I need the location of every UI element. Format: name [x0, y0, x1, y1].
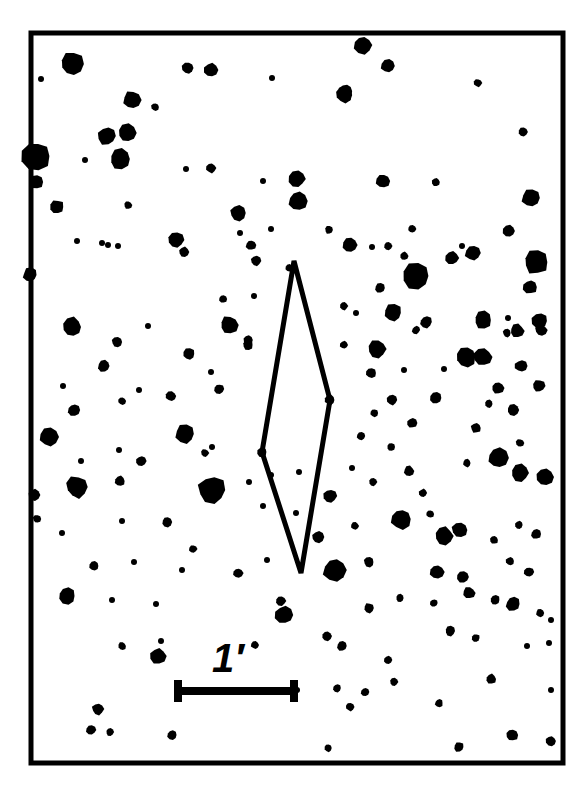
scale-bar-cap-left — [174, 680, 182, 702]
particle-dot — [105, 242, 111, 248]
particle-dot — [131, 559, 137, 565]
particle-dot — [459, 243, 465, 249]
particle-dot — [153, 601, 159, 607]
particle-dot — [526, 250, 548, 273]
micrograph-figure: 1′ — [0, 0, 584, 789]
particle-dot — [441, 366, 447, 372]
scale-bar-cap-right — [290, 680, 298, 702]
particle-dot — [345, 95, 351, 101]
particle-dot — [145, 323, 151, 329]
particle-dot — [115, 243, 121, 249]
particle-dot — [264, 557, 270, 563]
particle-dot — [116, 447, 122, 453]
particle-dot — [99, 240, 105, 246]
figure-caption — [0, 779, 584, 789]
particle-dot — [296, 469, 302, 475]
particle-dot — [369, 244, 375, 250]
particle-dot — [388, 443, 396, 450]
particle-dot — [136, 387, 142, 393]
particle-dot — [179, 567, 185, 573]
particle-dot — [505, 315, 511, 321]
particle-dot — [119, 518, 125, 524]
particle-dot — [50, 201, 63, 214]
particle-dot — [507, 730, 519, 741]
page-background — [0, 0, 584, 789]
particle-dot — [251, 293, 257, 299]
particle-dot — [183, 166, 189, 172]
particle-dot — [269, 75, 275, 81]
particle-dot — [246, 479, 252, 485]
particle-dot — [293, 510, 299, 516]
particle-dot — [524, 643, 530, 649]
particle-dot — [158, 638, 164, 644]
particle-dot — [548, 687, 554, 693]
particle-dot — [82, 157, 88, 163]
particle-dot — [208, 369, 214, 375]
particle-dot — [548, 617, 554, 623]
particle-dot — [260, 503, 266, 509]
particle-dot — [74, 238, 80, 244]
particle-dot — [60, 383, 66, 389]
particle-dot — [78, 458, 84, 464]
particle-dot — [237, 230, 243, 236]
scale-bar-label: 1′ — [212, 636, 246, 680]
particle-dot — [59, 530, 65, 536]
particle-dot — [260, 178, 266, 184]
particle-dot — [109, 597, 115, 603]
particle-dot — [209, 444, 215, 450]
particle-dot — [546, 640, 552, 646]
particle-dot — [38, 76, 44, 82]
particle-dot — [349, 465, 355, 471]
particle-dot — [268, 226, 274, 232]
particle-dot — [353, 310, 359, 316]
scale-bar-line — [174, 687, 298, 695]
particle-dot — [401, 367, 407, 373]
micrograph-canvas: 1′ — [0, 0, 584, 789]
